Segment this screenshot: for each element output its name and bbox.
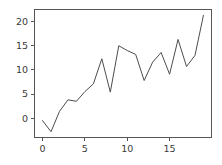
- y-tick-label: 5: [22, 88, 28, 99]
- figure-background: [0, 0, 222, 165]
- y-tick-label: 20: [16, 16, 28, 27]
- x-tick-label: 10: [121, 143, 133, 154]
- x-tick-label: 0: [40, 143, 46, 154]
- x-tick-label: 5: [82, 143, 88, 154]
- y-tick-label: 10: [16, 64, 28, 75]
- y-tick-label: 15: [16, 40, 28, 51]
- chart-figure: 05101520 051015: [0, 0, 222, 165]
- y-tick-label: 0: [22, 113, 28, 124]
- x-tick-label: 15: [164, 143, 176, 154]
- line-chart: 05101520 051015: [0, 0, 222, 165]
